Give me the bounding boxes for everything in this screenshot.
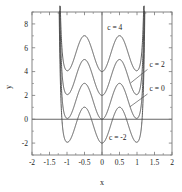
- plot-canvas: -2-1.5-1-0.500.511.52-202468 c = 4c = 2c…: [0, 0, 182, 192]
- y-tick-label: 0: [24, 115, 28, 124]
- x-tick-label: 0.5: [115, 158, 125, 167]
- x-tick-label: 1.5: [150, 158, 160, 167]
- x-tick-label: -1: [64, 158, 70, 167]
- x-tick-label: -0.5: [79, 158, 91, 167]
- x-tick-label: 2: [170, 158, 174, 167]
- x-axis-title: x: [100, 178, 104, 187]
- y-axis-title: y: [4, 85, 13, 89]
- curve-label-c-2: c = 2: [150, 60, 165, 69]
- y-tick-label: 8: [24, 20, 28, 29]
- x-tick-label: 0: [100, 158, 104, 167]
- y-tick-label: 2: [24, 91, 28, 100]
- chart-figure: -2-1.5-1-0.500.511.52-202468 c = 4c = 2c…: [0, 0, 182, 192]
- x-tick-label: -2: [29, 158, 35, 167]
- y-tick-label: -2: [22, 139, 28, 148]
- curve-label-c-0: c = 0: [150, 84, 165, 93]
- x-tick-label: 1: [135, 158, 139, 167]
- y-tick-label: 4: [24, 67, 28, 76]
- curve-label-c-4: c = 4: [107, 23, 122, 32]
- curve-label-c-2: c = -2: [109, 133, 127, 142]
- x-tick-label: -1.5: [44, 158, 56, 167]
- y-tick-label: 6: [24, 44, 28, 53]
